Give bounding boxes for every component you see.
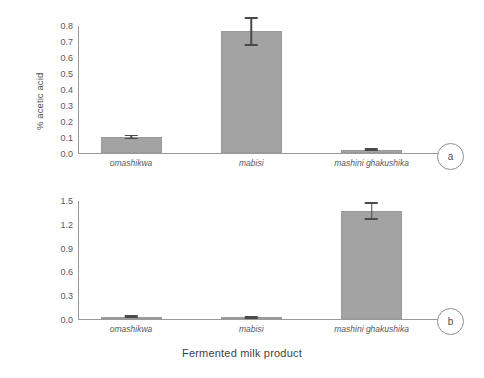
plot-area-b: 1.5 1.2 0.9 0.6 0.3 0.0 omashikwa mabisi: [78, 201, 438, 320]
panel-badge-b: b: [437, 308, 464, 335]
bar-slot-a-0: omashikwa: [101, 25, 162, 153]
bar-slot-b-0: omashikwa: [101, 200, 162, 319]
bar-b-mashini-ghakushika[interactable]: [341, 211, 402, 319]
x-axis-line-a: [78, 153, 445, 154]
y-tick-a-0: 0.8: [60, 21, 73, 31]
figure-container: % acetic acid 0.8 0.7 0.6 0.5 0.4 0.3 0.…: [0, 0, 484, 378]
bar-slot-b-2: mashini ghakushika: [341, 200, 402, 319]
y-tick-b-3: 0.6: [60, 267, 73, 277]
plot-area-a: 0.8 0.7 0.6 0.5 0.4 0.3 0.2 0.1 0.0 omas…: [78, 26, 438, 154]
bar-group-a: omashikwa mabisi mashini ghakushika: [79, 25, 438, 153]
error-bar-a-mashini-ghakushika: [371, 148, 373, 151]
x-tick-b-0: omashikwa: [110, 324, 153, 334]
y-tick-a-8: 0.0: [60, 149, 73, 159]
y-tick-b-5: 0.0: [60, 315, 73, 325]
bar-group-b: omashikwa mabisi mashini ghakushika: [79, 200, 438, 319]
y-tick-b-4: 0.3: [60, 291, 73, 301]
y-tick-b-0: 1.5: [60, 196, 73, 206]
y-tick-a-2: 0.6: [60, 53, 73, 63]
error-bar-b-mashini-ghakushika: [371, 202, 373, 219]
error-bar-b-mabisi: [251, 316, 253, 319]
bar-a-mabisi[interactable]: [221, 31, 282, 153]
bar-slot-b-1: mabisi: [221, 200, 282, 319]
y-tick-a-4: 0.4: [60, 85, 73, 95]
x-axis-title: Fermented milk product: [0, 347, 484, 359]
bar-slot-a-1: mabisi: [221, 25, 282, 153]
y-tick-a-6: 0.2: [60, 117, 73, 127]
y-tick-a-1: 0.7: [60, 37, 73, 47]
panel-badge-a: a: [437, 143, 464, 170]
y-tick-b-2: 0.9: [60, 244, 73, 254]
panel-acetic-acid: % acetic acid 0.8 0.7 0.6 0.5 0.4 0.3 0.…: [0, 0, 484, 190]
x-tick-b-1: mabisi: [239, 324, 264, 334]
x-tick-a-2: mashini ghakushika: [334, 158, 409, 168]
error-bar-b-omashikwa: [130, 315, 132, 318]
bar-slot-a-2: mashini ghakushika: [341, 25, 402, 153]
y-tick-b-1: 1.2: [60, 220, 73, 230]
y-axis-title-a: % acetic acid: [34, 73, 45, 130]
x-tick-b-2: mashini ghakushika: [334, 324, 409, 334]
error-bar-a-mabisi: [251, 17, 253, 46]
y-tick-a-5: 0.3: [60, 101, 73, 111]
x-tick-a-0: omashikwa: [110, 158, 153, 168]
x-tick-a-1: mabisi: [239, 158, 264, 168]
x-axis-line-b: [78, 319, 445, 320]
error-bar-a-omashikwa: [130, 135, 132, 140]
y-tick-a-7: 0.1: [60, 133, 73, 143]
y-tick-a-3: 0.5: [60, 69, 73, 79]
